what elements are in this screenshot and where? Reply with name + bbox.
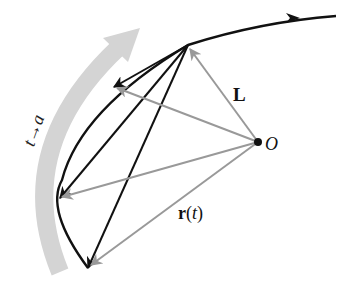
trajectory-curve — [57, 16, 336, 268]
label-r-close: ) — [197, 203, 203, 223]
label-O: O — [265, 134, 278, 155]
label-L: L — [233, 84, 246, 106]
chord-arrow-2 — [60, 45, 188, 198]
origin-point — [254, 138, 262, 146]
label-r-of-t: r(t) — [178, 203, 203, 224]
label-r-symbol: r — [178, 203, 186, 223]
diagram-canvas — [0, 0, 353, 300]
parameter-band-arrow — [44, 28, 140, 272]
vector-r-2 — [62, 142, 258, 197]
